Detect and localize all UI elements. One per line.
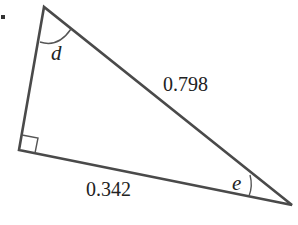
bullet-dot [1, 15, 5, 19]
bottom-leg-length-label: 0.342 [86, 178, 131, 200]
angle-label-e: e [232, 171, 241, 195]
triangle-outline [19, 7, 292, 205]
angle-label-d: d [51, 41, 62, 65]
triangle-diagram: d e 0.798 0.342 [0, 0, 298, 225]
angle-arc-e [249, 175, 251, 196]
hypotenuse-length-label: 0.798 [163, 73, 208, 95]
